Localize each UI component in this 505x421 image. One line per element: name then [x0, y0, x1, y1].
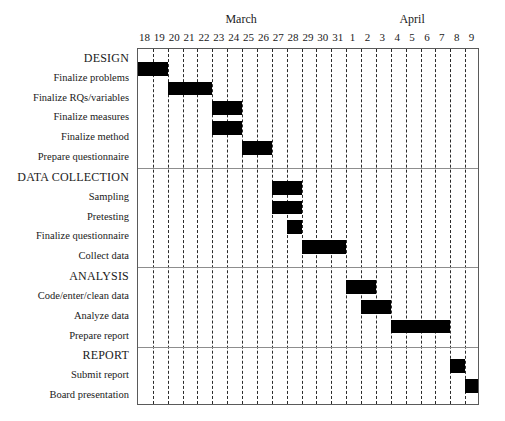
day-tick-30: 30: [315, 29, 330, 45]
month-label-april: April: [345, 11, 479, 28]
day-tick-2: 2: [360, 29, 375, 45]
gridline-day-30: [316, 49, 317, 404]
phase-label-design: DESIGN: [0, 52, 129, 64]
gridline-day-22: [197, 49, 198, 404]
gantt-plot-area: [137, 48, 479, 405]
task-label: Finalize questionnaire: [0, 230, 129, 242]
day-tick-8: 8: [449, 29, 464, 45]
gantt-chart: MarchApril 18192021222324252627282930311…: [0, 0, 505, 421]
day-tick-24: 24: [226, 29, 241, 45]
task-label: Analyze data: [0, 310, 129, 322]
day-tick-4: 4: [390, 29, 405, 45]
day-tick-27: 27: [271, 29, 286, 45]
gantt-bar: [287, 220, 302, 234]
gridline-day-29: [302, 49, 303, 404]
day-tick-3: 3: [375, 29, 390, 45]
gridline-day-2: [361, 49, 362, 404]
phase-label-report: REPORT: [0, 349, 129, 361]
gantt-bar: [391, 320, 450, 334]
gridline-day-6: [421, 49, 422, 404]
gridline-day-7: [435, 49, 436, 404]
day-tick-1: 1: [345, 29, 360, 45]
phase-label-data-collection: DATA COLLECTION: [0, 171, 129, 183]
day-tick-20: 20: [167, 29, 182, 45]
gantt-bar: [138, 62, 168, 76]
gantt-bar: [168, 82, 213, 96]
gridline-day-21: [183, 49, 184, 404]
day-tick-23: 23: [211, 29, 226, 45]
gridline-day-20: [168, 49, 169, 404]
day-header-row: 1819202122232425262728293031123456789: [137, 29, 479, 45]
day-tick-22: 22: [196, 29, 211, 45]
day-tick-5: 5: [405, 29, 420, 45]
gantt-bar: [361, 300, 391, 314]
section-divider: [138, 347, 478, 348]
gantt-bar: [272, 201, 302, 215]
task-label: Code/enter/clean data: [0, 290, 129, 302]
month-label-march: March: [137, 11, 345, 28]
day-tick-25: 25: [241, 29, 256, 45]
task-label: Prepare report: [0, 330, 129, 342]
day-tick-21: 21: [182, 29, 197, 45]
task-label-column: DESIGNFinalize problemsFinalize RQs/vari…: [0, 48, 133, 405]
month-header-row: MarchApril: [137, 11, 479, 28]
gridline-day-31: [331, 49, 332, 404]
day-tick-7: 7: [434, 29, 449, 45]
gantt-bar: [302, 240, 347, 254]
gridline-day-4: [391, 49, 392, 404]
task-label: Board presentation: [0, 389, 129, 401]
day-tick-31: 31: [330, 29, 345, 45]
task-label: Pretesting: [0, 211, 129, 223]
day-tick-9: 9: [464, 29, 479, 45]
gridline-day-5: [406, 49, 407, 404]
gridline-day-1: [346, 49, 347, 404]
task-label: Finalize problems: [0, 72, 129, 84]
phase-label-analysis: ANALYSIS: [0, 270, 129, 282]
day-tick-19: 19: [152, 29, 167, 45]
task-label: Collect data: [0, 250, 129, 262]
task-label: Submit report: [0, 369, 129, 381]
gantt-bar: [212, 121, 242, 135]
task-label: Sampling: [0, 191, 129, 203]
task-label: Finalize measures: [0, 111, 129, 123]
gantt-bar: [272, 181, 302, 195]
day-tick-18: 18: [137, 29, 152, 45]
gridline-day-26: [257, 49, 258, 404]
section-divider: [138, 168, 478, 169]
gantt-bar: [242, 141, 272, 155]
gridline-day-27: [272, 49, 273, 404]
day-tick-6: 6: [420, 29, 435, 45]
gridline-day-3: [376, 49, 377, 404]
day-tick-29: 29: [301, 29, 316, 45]
gantt-bar: [465, 379, 479, 393]
day-tick-28: 28: [286, 29, 301, 45]
section-divider: [138, 267, 478, 268]
day-tick-26: 26: [256, 29, 271, 45]
gantt-bar: [450, 359, 465, 373]
task-label: Prepare questionnaire: [0, 151, 129, 163]
gridline-day-8: [450, 49, 451, 404]
task-label: Finalize RQs/variables: [0, 92, 129, 104]
gridline-day-19: [153, 49, 154, 404]
gantt-bar: [346, 280, 376, 294]
gantt-bar: [212, 101, 242, 115]
gridline-day-25: [242, 49, 243, 404]
task-label: Finalize method: [0, 131, 129, 143]
gridline-day-9: [465, 49, 466, 404]
